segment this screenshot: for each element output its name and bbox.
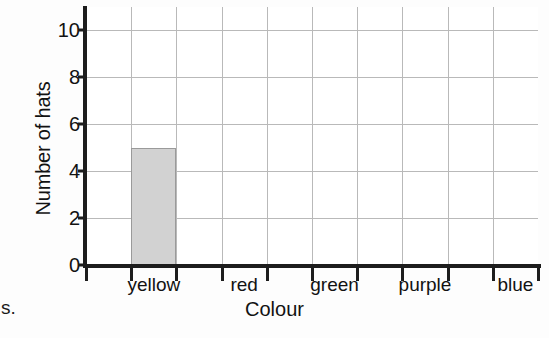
x-tick-label-blue: blue — [497, 274, 533, 296]
bar-yellow — [131, 148, 176, 265]
x-tick-label-red: red — [230, 274, 257, 296]
x-tick-label-green: green — [310, 274, 359, 296]
bar-series — [86, 7, 538, 265]
plot-area — [86, 7, 538, 265]
x-axis-title: Colour — [0, 298, 549, 321]
x-tick-label-purple: purple — [399, 274, 452, 296]
y-tick-label: 10 — [58, 19, 80, 42]
x-tick-label-yellow: yellow — [127, 274, 180, 296]
page-scan-fragment: s. — [1, 297, 16, 319]
bar-chart-figure: Number of hats 0246810 yellowredgreenpur… — [0, 0, 549, 338]
x-axis-category-labels: yellowredgreenpurpleblue — [0, 274, 549, 300]
y-axis-line — [83, 6, 87, 267]
